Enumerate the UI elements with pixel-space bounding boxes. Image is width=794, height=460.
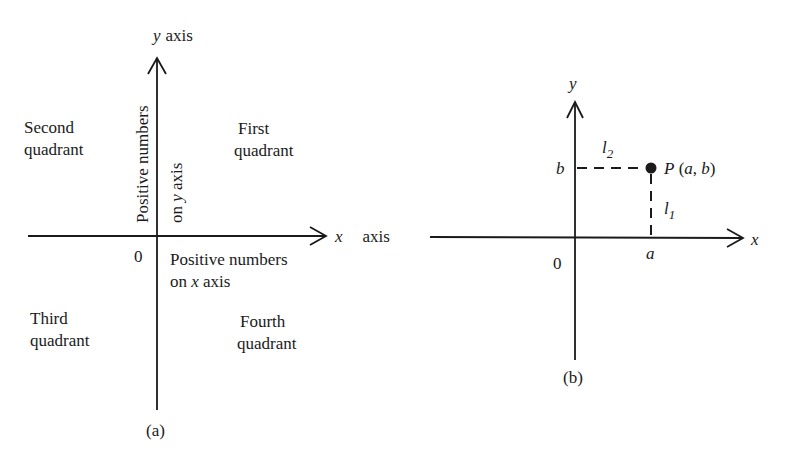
figure-b-y-axis-label: y [567, 74, 577, 93]
first-quadrant-label: First quadrant [234, 119, 294, 160]
l2-label: l2 [602, 138, 614, 161]
fourth-quadrant-label: Fourth quadrant [237, 312, 297, 353]
figure-b-point-coordinates: y x 0 P (a, b) b a l2 l1 (b) [430, 74, 759, 387]
positive-x-label: Positive numbers on x axis [170, 250, 292, 291]
coordinate-plane-figures: yaxis xaxis 0 Second quadrant First quad… [0, 0, 794, 460]
third-quadrant-label: Third quadrant [30, 309, 90, 350]
figure-a-origin-label: 0 [134, 247, 143, 266]
point-p-marker [646, 163, 657, 174]
figure-a-caption: (a) [146, 421, 165, 440]
positive-y-label-line1: Positive numbers [133, 105, 152, 223]
tick-a-label: a [646, 244, 655, 263]
figure-a-y-axis-label: yaxis [151, 26, 193, 45]
figure-b-caption: (b) [563, 368, 583, 387]
second-quadrant-label: Second quadrant [24, 118, 84, 159]
figure-a-x-axis-label: xaxis [334, 227, 390, 246]
point-p-label: P (a, b) [663, 159, 715, 178]
figure-a-quadrants: yaxis xaxis 0 Second quadrant First quad… [24, 26, 390, 440]
figure-b-x-axis-label: x [750, 230, 759, 249]
figure-b-origin-label: 0 [553, 254, 562, 273]
positive-y-label-line2: on y axis [167, 163, 186, 223]
tick-b-label: b [556, 159, 565, 178]
l1-label: l1 [664, 199, 675, 222]
figure-b-x-axis [430, 237, 742, 238]
